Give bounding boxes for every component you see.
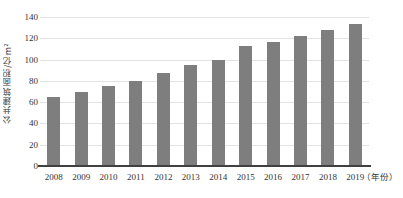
bar	[267, 42, 280, 166]
bar	[184, 65, 197, 166]
bar	[349, 24, 362, 166]
y-axis-tick-label: 40	[16, 119, 38, 128]
x-axis-tick-label: 2016	[259, 170, 287, 184]
bar	[102, 86, 115, 166]
y-axis-tick-labels: 020406080100120140	[14, 0, 38, 198]
bar	[212, 60, 225, 166]
bar	[239, 46, 252, 166]
x-axis-tick-label: 2010	[95, 170, 123, 184]
y-axis-tick-label: 140	[16, 13, 38, 22]
x-axis-tick-label: 2008	[40, 170, 68, 184]
y-axis-tick-label: 120	[16, 34, 38, 43]
x-axis-tick-label: 2012	[149, 170, 177, 184]
y-axis-tick-label: 60	[16, 98, 38, 107]
x-axis-tick-label: 2013	[177, 170, 205, 184]
bar-series	[40, 17, 369, 166]
x-axis-tick-label: 2018	[314, 170, 342, 184]
x-axis-tick-label: 2011	[122, 170, 150, 184]
y-axis-title-label: 公共建筑面积/亿m²	[2, 43, 14, 124]
y-axis-tick-label: 80	[16, 76, 38, 85]
y-axis-tick-label: 100	[16, 55, 38, 64]
bar	[129, 81, 142, 166]
x-axis-tick-label: 2015	[232, 170, 260, 184]
x-axis-title: （年份）	[362, 170, 398, 184]
bar	[75, 92, 88, 167]
bar	[47, 97, 60, 166]
x-axis-tick-label: 2014	[204, 170, 232, 184]
x-axis-line	[38, 165, 371, 167]
y-axis-tick-label: 20	[16, 140, 38, 149]
bar	[321, 30, 334, 166]
x-axis-tick-label: 2017	[286, 170, 314, 184]
x-axis-tick-label: 2009	[67, 170, 95, 184]
y-axis-tick-label: 0	[16, 162, 38, 171]
bar	[157, 73, 170, 166]
plot-area	[40, 17, 369, 166]
bar-chart: 公共建筑面积/亿m² 020406080100120140 2008200920…	[0, 0, 403, 198]
bar	[294, 36, 307, 166]
x-axis-tick-labels: 2008200920102011201220132014201520162017…	[40, 170, 369, 186]
